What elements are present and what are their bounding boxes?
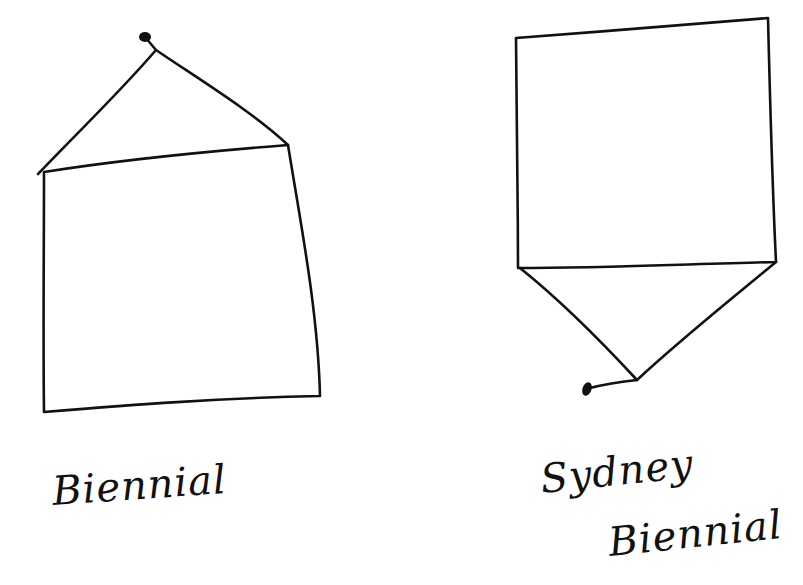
right-tip-stem: [590, 380, 637, 388]
right-figure: [516, 18, 776, 397]
right-triangle: [520, 262, 776, 380]
right-tip-dot: [580, 381, 593, 397]
right-square: [516, 18, 776, 268]
left-square: [44, 145, 320, 412]
left-figure: [38, 32, 320, 412]
